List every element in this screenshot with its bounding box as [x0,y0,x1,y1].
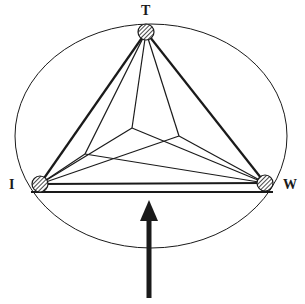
vertex-label-i: I [9,177,14,192]
vertex-node-i [32,176,48,192]
arrow-head [140,200,158,221]
ternary-diagram: T I W [0,0,305,304]
edge-t-right [146,32,179,136]
arrow-shaft [147,220,152,298]
up-arrow-icon [140,200,158,298]
vertex-label-t: T [141,3,151,18]
vertex-label-w: W [283,177,297,192]
edge-i-w [40,183,265,184]
vertex-node-w [257,175,273,191]
interior-edges [40,32,265,184]
edge-i-right [40,136,179,184]
edge-t-w [146,32,265,183]
vertex-node-t [138,24,154,40]
edge-w-center [132,128,265,183]
edge-i-center [40,128,132,184]
